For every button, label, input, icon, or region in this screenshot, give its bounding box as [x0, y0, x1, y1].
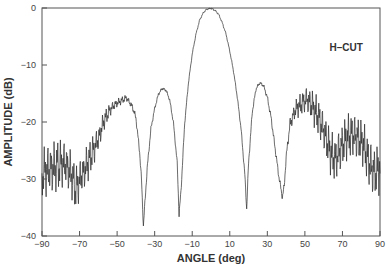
- h-cut-annotation: H–CUT: [330, 42, 363, 53]
- x-tick-label: −50: [109, 239, 124, 249]
- x-tick-label: −90: [34, 239, 49, 249]
- x-tick-label: −70: [72, 239, 87, 249]
- y-axis-label: AMPLITUDE (dB): [2, 77, 14, 167]
- x-tick-label: −10: [185, 239, 200, 249]
- x-tick-label: −30: [147, 239, 162, 249]
- x-axis-ticks: −90−70−50−30−101030507090: [34, 231, 385, 249]
- x-tick-label: 90: [375, 239, 385, 249]
- x-tick-label: 70: [337, 239, 347, 249]
- x-tick-label: 30: [262, 239, 272, 249]
- x-tick-label: 10: [225, 239, 235, 249]
- y-tick-label: −30: [21, 174, 36, 184]
- pattern-trace: [42, 8, 380, 226]
- x-axis-label: ANGLE (deg): [177, 252, 246, 264]
- amplitude-angle-chart: −90−70−50−30−101030507090 0−10−20−30−40 …: [0, 0, 390, 268]
- y-axis-ticks: 0−10−20−30−40: [21, 3, 47, 241]
- y-tick-label: −10: [21, 60, 36, 70]
- y-tick-label: −40: [21, 231, 36, 241]
- y-tick-label: 0: [31, 3, 36, 13]
- x-tick-label: 50: [300, 239, 310, 249]
- y-tick-label: −20: [21, 117, 36, 127]
